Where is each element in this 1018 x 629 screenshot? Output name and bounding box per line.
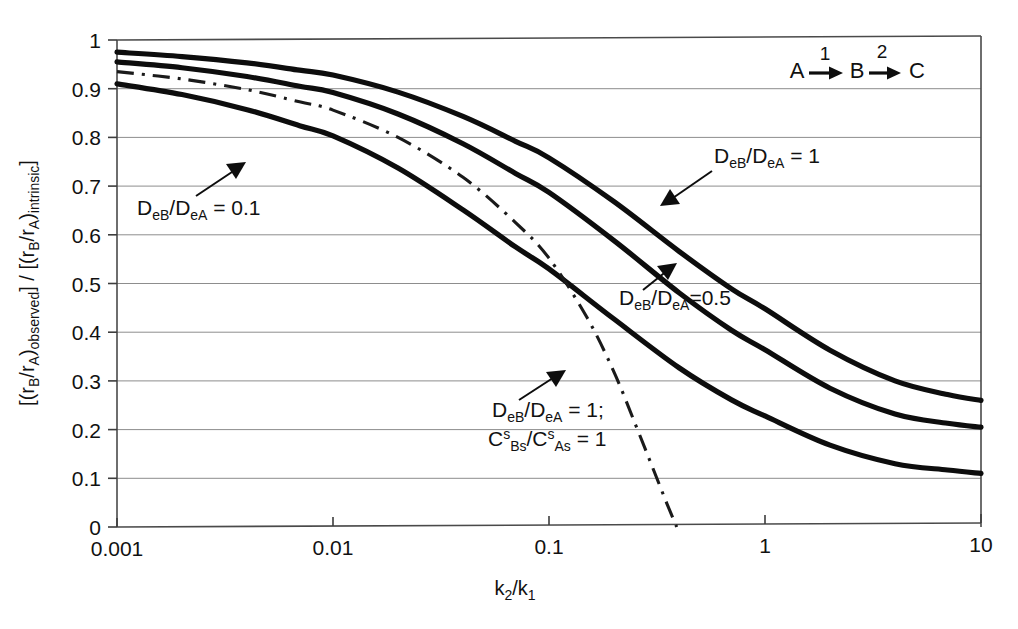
ytick-label-1: 1 (89, 29, 101, 52)
ytick-label-0.1: 0.1 (72, 467, 101, 490)
y-title-sub-b2: B (26, 241, 42, 250)
y-title-p2: ) (16, 349, 38, 356)
ytick-label-0.4: 0.4 (72, 321, 102, 344)
reaction-species-c: C (909, 58, 925, 83)
x-axis-title-slash: /k (512, 577, 529, 599)
ytick-label-0.3: 0.3 (72, 370, 101, 393)
xtick-label-10: 10 (969, 533, 992, 556)
x-axis-title-sub2: 2 (504, 587, 512, 603)
y-title-p3: ) (16, 213, 38, 220)
ytick-label-0.9: 0.9 (72, 78, 101, 101)
ytick-label-0.5: 0.5 (72, 273, 101, 296)
reaction-species-a: A (790, 58, 805, 83)
chart-svg: 1 0.9 0.8 0.7 0.6 0.5 0.4 0.3 0.2 0.1 0 … (0, 0, 1018, 629)
figure-container: 1 0.9 0.8 0.7 0.6 0.5 0.4 0.3 0.2 0.1 0 … (0, 0, 1018, 629)
y-title-p1: [(r (16, 387, 38, 406)
y-title-slash2: /r (16, 229, 38, 242)
y-title-slash: /r (16, 365, 38, 378)
xtick-label-0.01: 0.01 (313, 536, 354, 559)
canvas-background (0, 0, 1018, 629)
y-title-observed: observed (26, 292, 42, 350)
y-title-close: ] (16, 160, 38, 166)
xtick-label-1: 1 (759, 534, 771, 557)
xtick-label-0.001: 0.001 (91, 537, 144, 560)
ytick-label-0.8: 0.8 (72, 126, 101, 149)
y-title-intrinsic: intrinsic (26, 166, 42, 213)
ytick-label-0.2: 0.2 (72, 419, 101, 442)
ytick-label-0.6: 0.6 (72, 224, 101, 247)
reaction-step-2-number: 2 (877, 41, 888, 62)
reaction-step-1-number: 1 (820, 43, 831, 64)
y-title-sub-b: B (26, 378, 42, 387)
x-axis-title-sub1: 1 (528, 587, 536, 603)
reaction-species-b: B (850, 58, 865, 83)
xtick-label-0.1: 0.1 (534, 535, 563, 558)
y-title-bracket: ] / [(r (16, 250, 38, 291)
ytick-label-0.7: 0.7 (72, 175, 101, 198)
ytick-label-0: 0 (89, 516, 101, 539)
